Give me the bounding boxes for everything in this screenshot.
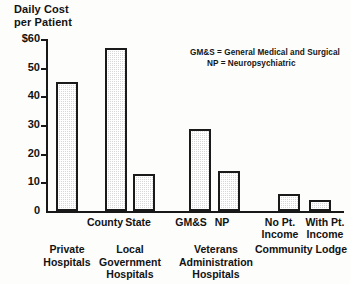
legend-line-np: NP = Neuropsychiatric bbox=[190, 58, 340, 69]
y-tick-mark-20 bbox=[41, 154, 47, 156]
legend-line-gms: GM&S = General Medical and Surgical bbox=[190, 47, 340, 58]
bar-label-np: NP bbox=[207, 216, 237, 228]
y-tick-mark-60 bbox=[41, 39, 47, 41]
bar-np bbox=[218, 171, 240, 211]
x-axis-line bbox=[46, 211, 344, 213]
bar-label-state: State bbox=[118, 216, 158, 228]
y-tick-mark-10 bbox=[41, 182, 47, 184]
bar-state bbox=[133, 174, 155, 211]
bar-with-pt-income bbox=[309, 200, 331, 212]
bar-no-pt-income bbox=[278, 194, 300, 211]
bar-private-hospitals bbox=[56, 82, 78, 211]
y-tick-label-50: 50 bbox=[28, 61, 40, 73]
y-tick-mark-50 bbox=[41, 68, 47, 70]
bar-chart-figure: Daily Cost per Patient $60 50 40 30 20 1… bbox=[0, 0, 350, 284]
y-tick-label-20: 20 bbox=[28, 147, 40, 159]
y-tick-label-60: $60 bbox=[22, 32, 40, 44]
chart-y-axis-title: Daily Cost per Patient bbox=[14, 3, 72, 29]
bar-county bbox=[105, 48, 127, 211]
legend-annotation: GM&S = General Medical and Surgical NP =… bbox=[190, 47, 340, 69]
y-tick-label-0: 0 bbox=[34, 204, 40, 216]
y-tick-label-40: 40 bbox=[28, 89, 40, 101]
y-tick-mark-40 bbox=[41, 96, 47, 98]
y-tick-label-30: 30 bbox=[28, 118, 40, 130]
y-tick-label-10: 10 bbox=[28, 175, 40, 187]
y-tick-mark-30 bbox=[41, 125, 47, 127]
bar-gms bbox=[189, 129, 211, 211]
bar-label-no-pt-income: No Pt. Income bbox=[255, 216, 305, 240]
bar-label-with-pt-income: With Pt. Income bbox=[300, 216, 350, 240]
category-caption-community-lodge: Community Lodge bbox=[253, 243, 349, 256]
